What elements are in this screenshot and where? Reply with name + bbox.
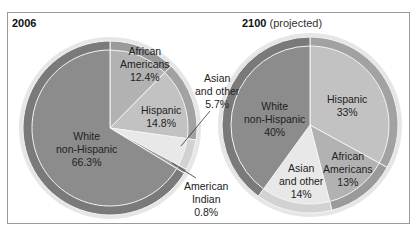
label-2100-hispanic: Hispanic33% — [327, 93, 367, 119]
label-2100-white-non-hispanic: Whitenon-Hispanic40% — [244, 100, 305, 139]
label-2100-african-americans: AfricanAmericans13% — [323, 150, 373, 189]
label-2006-american-indian: AmericanIndian0.8% — [184, 180, 228, 219]
label-2006-hispanic: Hispanic14.8% — [141, 104, 181, 130]
label-2006-white-non-hispanic: Whitenon-Hispanic66.3% — [56, 130, 117, 169]
label-2006-asian-other: Asianand other5.7% — [195, 72, 239, 111]
label-2006-african-americans: AfricanAmericans12.4% — [120, 45, 170, 84]
label-2100-asian-other: Asianand other14% — [279, 162, 323, 201]
